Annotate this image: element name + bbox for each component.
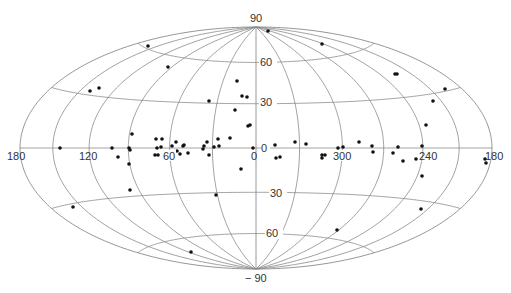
lon-label-300: 300: [333, 150, 351, 162]
data-point: [127, 162, 131, 166]
data-point: [233, 108, 237, 112]
data-point: [239, 167, 243, 171]
data-point: [174, 140, 178, 144]
data-point: [128, 148, 132, 152]
data-point: [71, 205, 75, 209]
lat-label-0: 0: [261, 142, 267, 154]
data-point: [278, 155, 282, 159]
data-point: [110, 146, 114, 150]
lat-label-90-top: 90: [250, 12, 262, 24]
data-point: [443, 87, 447, 91]
data-point: [266, 29, 270, 33]
lat-label-60-south: 60: [266, 227, 278, 239]
data-point: [371, 150, 375, 154]
data-point: [431, 99, 435, 103]
lat-label-30-north: 30: [260, 96, 272, 108]
lon-label-60: 60: [163, 150, 175, 162]
data-point: [401, 159, 405, 163]
data-point: [217, 144, 221, 148]
data-point: [420, 174, 424, 178]
data-point: [156, 153, 160, 157]
data-point: [178, 152, 182, 156]
data-point: [88, 89, 92, 93]
data-point: [274, 156, 278, 160]
data-point: [160, 137, 164, 141]
data-point: [235, 79, 239, 83]
data-point: [58, 146, 62, 150]
data-point: [304, 142, 308, 146]
data-point: [154, 137, 158, 141]
data-point: [391, 151, 395, 155]
lon-label-0: 0: [251, 150, 257, 162]
data-point: [245, 95, 249, 99]
data-point: [155, 146, 159, 150]
data-point: [341, 145, 345, 149]
data-point: [207, 99, 211, 103]
hammer-aitoff-plot: 180 120 60 0 300 240 180 90 60 30 0 30 6…: [0, 0, 511, 293]
data-point: [128, 188, 132, 192]
data-point: [273, 143, 277, 147]
data-point: [97, 86, 101, 90]
data-point: [240, 94, 244, 98]
data-point: [396, 145, 400, 149]
data-point: [207, 153, 211, 157]
data-point: [189, 250, 193, 254]
data-point: [212, 145, 216, 149]
data-point: [216, 137, 220, 141]
data-point: [170, 144, 174, 148]
data-point: [182, 143, 186, 147]
data-point: [420, 144, 424, 148]
data-point: [370, 144, 374, 148]
data-point: [323, 153, 327, 157]
data-point: [395, 72, 399, 76]
lon-label-180-left: 180: [7, 150, 25, 162]
data-point: [214, 193, 218, 197]
lat-label-60-north: 60: [260, 56, 272, 68]
data-point: [130, 132, 134, 136]
lon-label-240: 240: [419, 150, 437, 162]
data-point: [419, 207, 423, 211]
data-point: [424, 123, 428, 127]
data-point: [159, 145, 163, 149]
data-point: [166, 65, 170, 69]
lon-label-120: 120: [79, 150, 97, 162]
data-point: [357, 140, 361, 144]
data-point: [228, 136, 232, 140]
data-point: [205, 140, 209, 144]
data-point: [116, 155, 120, 159]
lat-label-30-south: 30: [270, 187, 282, 199]
data-point: [293, 140, 297, 144]
lat-label-90-bottom: − 90: [245, 272, 267, 284]
data-point: [146, 44, 150, 48]
lon-label-180-right: 180: [485, 150, 503, 162]
data-point: [320, 42, 324, 46]
data-point: [186, 151, 190, 155]
data-point: [414, 157, 418, 161]
data-point: [335, 228, 339, 232]
data-point: [201, 147, 205, 151]
data-point: [320, 156, 324, 160]
data-point: [248, 123, 252, 127]
sky-map-figure: 180 120 60 0 300 240 180 90 60 30 0 30 6…: [0, 0, 511, 293]
